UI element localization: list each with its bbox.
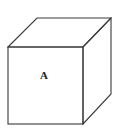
top-face xyxy=(8,18,111,47)
cube-diagram: A xyxy=(0,0,118,131)
front-face-label: A xyxy=(40,69,48,81)
front-face xyxy=(8,47,83,124)
right-face xyxy=(83,18,111,124)
